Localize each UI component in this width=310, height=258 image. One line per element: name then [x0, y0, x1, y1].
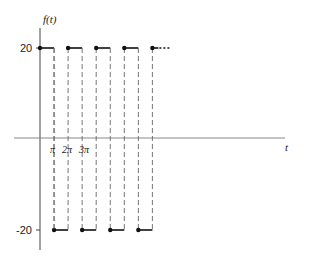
- square-wave-chart: [0, 0, 310, 258]
- segment-start-dot: [108, 228, 112, 232]
- square-wave-series: [38, 46, 171, 232]
- y-tick-label-20: 20: [20, 42, 32, 54]
- segment-start-dot: [150, 46, 154, 50]
- segment-start-dot: [136, 228, 140, 232]
- segment-start-dot: [38, 46, 42, 50]
- x-tick-label-pi: π: [50, 144, 55, 155]
- y-tick-label-neg20: -20: [16, 224, 32, 236]
- x-tick-label-2pi: 2π: [62, 144, 72, 155]
- segment-start-dot: [94, 46, 98, 50]
- x-axis-label: t: [285, 141, 288, 153]
- y-axis-label: f(t): [43, 13, 56, 25]
- x-tick-label-3pi: 3π: [79, 144, 89, 155]
- segment-start-dot: [66, 46, 70, 50]
- segment-start-dot: [122, 46, 126, 50]
- segment-start-dot: [80, 228, 84, 232]
